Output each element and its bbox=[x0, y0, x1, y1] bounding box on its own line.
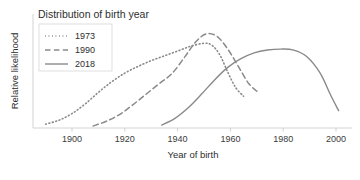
series-line-1990 bbox=[93, 33, 259, 126]
x-tick-label-2000: 2000 bbox=[326, 134, 346, 144]
chart-legend: 197319902018 bbox=[39, 24, 112, 71]
y-axis-title: Relative likelihood bbox=[9, 33, 20, 110]
x-tick-label-1980: 1980 bbox=[273, 134, 293, 144]
chart-title: Distribution of birth year bbox=[38, 8, 149, 20]
legend-label-1973: 1973 bbox=[75, 31, 95, 41]
x-axis-tick-labels: 190019201940196019802000 bbox=[62, 134, 346, 144]
x-tick-label-1900: 1900 bbox=[62, 134, 82, 144]
x-tick-label-1920: 1920 bbox=[115, 134, 135, 144]
series-line-2018 bbox=[162, 49, 339, 125]
chart-container: Distribution of birth year 1900192019401… bbox=[0, 0, 360, 180]
x-tick-label-1960: 1960 bbox=[220, 134, 240, 144]
x-tick-label-1940: 1940 bbox=[168, 134, 188, 144]
x-axis-title: Year of birth bbox=[168, 149, 219, 160]
birth-year-distribution-chart: Distribution of birth year 1900192019401… bbox=[0, 0, 360, 180]
legend-label-1990: 1990 bbox=[75, 45, 95, 55]
legend-label-2018: 2018 bbox=[75, 59, 95, 69]
x-axis-ticks bbox=[72, 128, 336, 132]
